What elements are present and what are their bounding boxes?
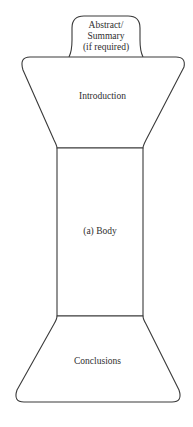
introduction-shape <box>22 57 184 148</box>
introduction-label: Introduction <box>20 91 185 102</box>
abstract-label-line-1: Abstract/ <box>70 20 142 31</box>
body-label: (a) Body <box>57 226 143 237</box>
abstract-label-line-2: Summary <box>70 31 142 42</box>
abstract-label-line-3: (if required) <box>70 42 142 53</box>
conclusions-label: Conclusions <box>15 356 180 367</box>
abstract-label: Abstract/ Summary (if required) <box>70 20 142 53</box>
